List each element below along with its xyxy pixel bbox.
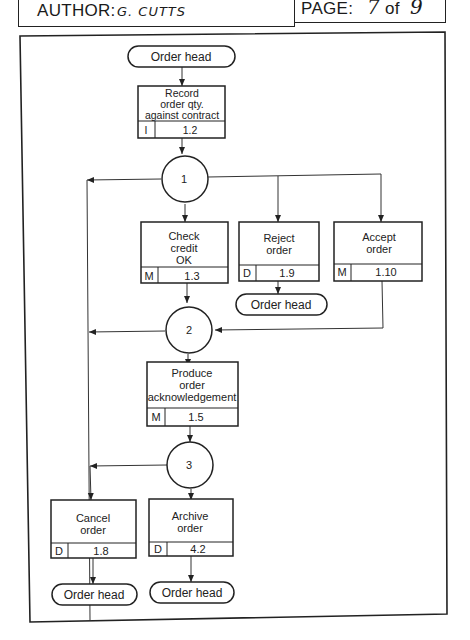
svg-text:M: M	[337, 266, 346, 278]
svg-text:1.9: 1.9	[279, 267, 294, 279]
svg-text:order: order	[266, 244, 292, 256]
svg-text:order: order	[179, 379, 205, 391]
svg-text:1.3: 1.3	[184, 270, 199, 282]
svg-text:D: D	[154, 543, 162, 555]
svg-text:Produce: Produce	[172, 367, 213, 379]
svg-text:M: M	[144, 270, 153, 282]
svg-text:OK: OK	[176, 254, 193, 266]
svg-text:Cancel: Cancel	[76, 512, 110, 524]
process-check-credit: Check credit OK M 1.3	[141, 222, 228, 283]
svg-text:1.8: 1.8	[93, 545, 108, 557]
connector-3: 3	[167, 442, 213, 488]
svg-text:1.10: 1.10	[375, 266, 396, 278]
terminator-after-reject: Order head	[236, 294, 327, 315]
svg-text:Order head: Order head	[162, 586, 223, 600]
svg-text:2: 2	[186, 324, 192, 336]
svg-text:3: 3	[186, 459, 192, 471]
svg-text:Check: Check	[168, 230, 200, 242]
process-produce-acknowledgement: Produce order acknowledgement M 1.5	[147, 362, 238, 426]
terminator-after-cancel: Order head	[52, 584, 137, 605]
svg-text:Order head: Order head	[151, 50, 212, 64]
terminator-start: Order head	[128, 46, 235, 67]
process-record-order-qty: Record order qty. against contract I 1.2	[138, 86, 225, 138]
svg-text:Archive: Archive	[172, 510, 209, 522]
process-accept-order: Accept order M 1.10	[334, 222, 422, 281]
svg-text:order: order	[80, 524, 106, 536]
terminator-after-archive: Order head	[150, 582, 234, 603]
process-reject-order: Reject order D 1.9	[239, 222, 319, 281]
structure-diagram: Order head Record order qty. against con…	[0, 0, 470, 640]
svg-text:D: D	[243, 267, 251, 279]
svg-text:order: order	[366, 243, 392, 255]
svg-text:1.2: 1.2	[183, 124, 198, 136]
svg-text:Accept: Accept	[362, 231, 396, 243]
svg-text:against contract: against contract	[145, 109, 219, 121]
svg-text:Order head: Order head	[251, 298, 312, 312]
svg-text:M: M	[151, 411, 160, 423]
svg-text:D: D	[55, 545, 63, 557]
svg-text:4.2: 4.2	[190, 543, 205, 555]
svg-text:credit: credit	[171, 242, 198, 254]
svg-text:1.5: 1.5	[188, 411, 203, 423]
svg-text:I: I	[145, 124, 148, 136]
process-archive-order: Archive order D 4.2	[149, 499, 233, 556]
process-cancel-order: Cancel order D 1.8	[51, 500, 136, 558]
connector-2: 2	[166, 307, 212, 353]
connector-1: 1	[162, 156, 208, 202]
svg-text:Reject: Reject	[263, 232, 294, 244]
svg-text:1: 1	[181, 173, 187, 185]
svg-text:order: order	[177, 522, 203, 534]
svg-text:acknowledgement: acknowledgement	[148, 391, 237, 403]
svg-text:Order head: Order head	[64, 588, 125, 602]
